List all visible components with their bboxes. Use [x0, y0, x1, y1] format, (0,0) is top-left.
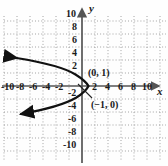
x-tick-label-10: 10 [142, 82, 152, 92]
x-tick-label--8: -8 [16, 82, 24, 92]
x-tick-label--4: -4 [42, 82, 50, 92]
y-tick-label--2: -2 [68, 88, 76, 98]
point-label-0-1: (0, 1) [88, 68, 110, 78]
y-tick-label-8: 8 [72, 22, 77, 32]
graph-canvas: -10 -8 -6 -4 -2 2 4 6 8 10 10 8 6 4 2 -2… [0, 0, 168, 166]
y-tick-label-2: 2 [72, 61, 77, 71]
x-tick-label-8: 8 [131, 82, 136, 92]
x-tick-label-2: 2 [92, 82, 97, 92]
y-tick-label--8: -8 [68, 127, 76, 137]
y-tick-label--6: -6 [68, 114, 76, 124]
x-tick-label--6: -6 [29, 82, 37, 92]
point-label-neg1-0: (−1, 0) [91, 100, 118, 110]
y-tick-label--4: -4 [68, 101, 76, 111]
x-axis-label: x [157, 86, 163, 97]
x-tick-label-4: 4 [105, 82, 110, 92]
y-tick-label-10: 10 [66, 9, 76, 19]
x-tick-label-6: 6 [118, 82, 123, 92]
x-tick-label--2: -2 [55, 82, 63, 92]
y-tick-label--10: -10 [63, 140, 76, 150]
y-axis-label: y [89, 3, 94, 14]
y-tick-label-4: 4 [72, 48, 77, 58]
y-tick-label-6: 6 [72, 35, 77, 45]
x-tick-label--10: -10 [1, 82, 14, 92]
